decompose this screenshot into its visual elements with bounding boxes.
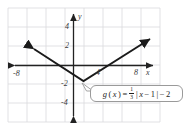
vertical-shift-value: 2 — [166, 89, 170, 99]
abs-bar-close: | — [157, 89, 159, 99]
abs-variable: x — [139, 89, 143, 99]
equation-callout: g ( x ) = 1 3 | x − 1 | − 2 — [90, 85, 183, 102]
fraction-numerator: 1 — [129, 87, 134, 93]
y-axis-label: y — [78, 13, 82, 21]
y-tick-label-neg4: -4 — [61, 99, 68, 107]
y-tick-label-neg2: -2 — [61, 80, 68, 88]
function-curve — [8, 8, 160, 122]
abs-bar-open: | — [136, 89, 138, 99]
graph-figure: -8 4 8 4 2 -2 -4 y x g ( x ) = 1 3 | x − — [0, 0, 187, 134]
y-tick-label-2: 2 — [65, 42, 69, 50]
abs-shift-value: 1 — [151, 89, 155, 99]
paren-close: ) — [118, 89, 121, 99]
equals-sign: = — [122, 89, 127, 99]
plot-area: -8 4 8 4 2 -2 -4 y x — [8, 8, 160, 122]
equation-text: g ( x ) = 1 3 | x − 1 | − 2 — [103, 87, 171, 100]
function-arg: x — [113, 89, 117, 99]
y-tick-label-4: 4 — [65, 23, 69, 31]
paren-open: ( — [108, 89, 111, 99]
x-axis-label: x — [146, 69, 150, 77]
fraction-denominator: 3 — [129, 95, 134, 101]
function-name: g — [103, 89, 107, 99]
coefficient-fraction: 1 3 — [129, 87, 134, 100]
x-tick-label-8: 8 — [134, 69, 138, 77]
abs-minus-sign: − — [144, 89, 149, 99]
x-tick-label-neg8: -8 — [13, 70, 20, 78]
x-tick-label-4: 4 — [96, 69, 100, 77]
absolute-value-graph — [34, 39, 150, 81]
trailing-minus-sign: − — [160, 89, 165, 99]
